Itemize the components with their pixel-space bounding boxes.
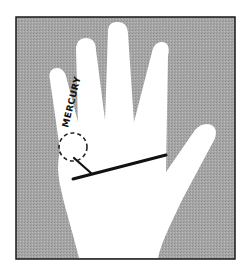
palmistry-diagram: MERCURY [0,0,249,274]
hand-illustration: MERCURY [0,0,249,274]
